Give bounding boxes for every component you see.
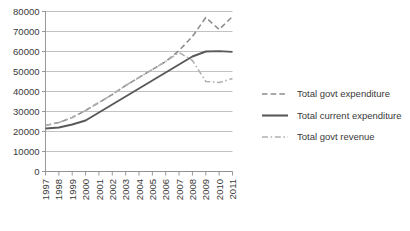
x-axis-tick-label: 2006 — [160, 179, 171, 200]
x-axis-labels: 1997199819992000200120022003200420052006… — [40, 179, 238, 200]
x-axis-tick-label: 2007 — [174, 179, 185, 200]
x-axis-tick-label: 2009 — [200, 179, 211, 200]
line-chart: 0100002000030000400005000060000700008000… — [0, 0, 410, 231]
x-axis-tick-label: 2005 — [147, 179, 158, 200]
y-axis-tick-label: 20000 — [13, 126, 39, 137]
y-axis-tick-label: 70000 — [13, 26, 39, 37]
y-axis-tick-label: 60000 — [13, 46, 39, 57]
x-axis-tick-label: 2000 — [80, 179, 91, 200]
y-axis-tick-label: 40000 — [13, 86, 39, 97]
x-axis-tick-label: 1999 — [67, 179, 78, 200]
x-axis-tick-label: 2008 — [187, 179, 198, 200]
chart-canvas: 0100002000030000400005000060000700008000… — [0, 0, 410, 231]
x-axis-tick-label: 2004 — [134, 179, 145, 200]
legend-item-label: Total govt expenditure — [297, 88, 390, 99]
y-axis-tick-label: 10000 — [13, 146, 39, 157]
y-axis-tick-label: 80000 — [13, 6, 39, 17]
x-axis-tick-label: 1998 — [53, 179, 64, 200]
y-axis-tick-label: 50000 — [13, 66, 39, 77]
x-axis-tick-label: 2011 — [227, 179, 238, 199]
x-axis-tick-label: 2001 — [94, 179, 105, 200]
x-axis-tick-label: 2003 — [120, 179, 131, 200]
legend-item-label: Total current expenditure — [297, 110, 402, 121]
x-axis-tick-label: 2002 — [107, 179, 118, 200]
x-axis-tick-label: 1997 — [40, 179, 51, 200]
y-axis-tick-label: 0 — [34, 166, 39, 177]
y-axis-labels: 0100002000030000400005000060000700008000… — [13, 6, 39, 177]
legend-item-label: Total govt revenue — [297, 131, 375, 142]
y-axis-tick-label: 30000 — [13, 106, 39, 117]
x-axis-tick-label: 2010 — [214, 179, 225, 200]
